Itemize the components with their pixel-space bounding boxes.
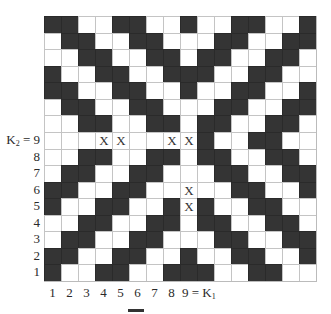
- empty-cell: [44, 215, 61, 232]
- empty-cell: [61, 149, 78, 166]
- empty-cell: [299, 215, 316, 232]
- empty-cell: [61, 215, 78, 232]
- marked-cell: X: [180, 132, 197, 149]
- y-tick-label: 7: [0, 165, 40, 181]
- x-label-k1: 9 = K1: [182, 285, 216, 305]
- empty-cell: [282, 248, 299, 265]
- empty-cell: [44, 231, 61, 248]
- empty-cell: [265, 16, 282, 33]
- empty-cell: [146, 66, 163, 83]
- y-tick-label: 3: [0, 231, 40, 247]
- empty-cell: [231, 132, 248, 149]
- filled-cell: [129, 182, 146, 199]
- empty-cell: [44, 149, 61, 166]
- filled-cell: [299, 99, 316, 116]
- empty-cell: [95, 82, 112, 99]
- x-tick-label: 5: [112, 285, 129, 301]
- empty-cell: [163, 99, 180, 116]
- filled-cell: [44, 182, 61, 199]
- empty-cell: [299, 132, 316, 149]
- filled-cell: [95, 115, 112, 132]
- x-tick-label: 7: [146, 285, 163, 301]
- filled-cell: [299, 16, 316, 33]
- empty-cell: [78, 132, 95, 149]
- empty-cell: [248, 231, 265, 248]
- filled-cell: [95, 215, 112, 232]
- empty-cell: [163, 33, 180, 50]
- empty-cell: [163, 248, 180, 265]
- filled-cell: [163, 66, 180, 83]
- filled-cell: [44, 264, 61, 281]
- empty-cell: [299, 264, 316, 281]
- empty-cell: [78, 66, 95, 83]
- empty-cell: [95, 99, 112, 116]
- empty-cell: [44, 132, 61, 149]
- marked-cell: X: [163, 132, 180, 149]
- empty-cell: [78, 182, 95, 199]
- x-tick-label: 2: [61, 285, 78, 301]
- empty-cell: [129, 132, 146, 149]
- empty-cell: [265, 248, 282, 265]
- filled-cell: [299, 33, 316, 50]
- empty-cell: [146, 132, 163, 149]
- empty-cell: [129, 264, 146, 281]
- filled-cell: [129, 165, 146, 182]
- empty-cell: [163, 16, 180, 33]
- filled-cell: [265, 264, 282, 281]
- empty-cell: [112, 231, 129, 248]
- empty-cell: [163, 182, 180, 199]
- empty-cell: [61, 198, 78, 215]
- empty-cell: [282, 16, 299, 33]
- filled-cell: [299, 231, 316, 248]
- empty-cell: [265, 231, 282, 248]
- empty-cell: [112, 49, 129, 66]
- filled-cell: [95, 49, 112, 66]
- filled-cell: [231, 16, 248, 33]
- empty-cell: [163, 165, 180, 182]
- filled-cell: [146, 115, 163, 132]
- empty-cell: [44, 115, 61, 132]
- empty-cell: [265, 99, 282, 116]
- filled-cell: [248, 66, 265, 83]
- filled-cell: [163, 49, 180, 66]
- filled-cell: [299, 182, 316, 199]
- empty-cell: [299, 115, 316, 132]
- empty-cell: [214, 264, 231, 281]
- filled-cell: [248, 132, 265, 149]
- filled-cell: [44, 16, 61, 33]
- filled-cell: [180, 82, 197, 99]
- filled-cell: [197, 49, 214, 66]
- filled-cell: [214, 115, 231, 132]
- filled-cell: [163, 115, 180, 132]
- empty-cell: [282, 66, 299, 83]
- y-tick-label: 4: [0, 215, 40, 231]
- filled-cell: [231, 182, 248, 199]
- filled-cell: [197, 198, 214, 215]
- filled-cell: [299, 82, 316, 99]
- empty-cell: [95, 182, 112, 199]
- empty-cell: [95, 231, 112, 248]
- marked-cell: X: [180, 198, 197, 215]
- filled-cell: [299, 248, 316, 265]
- filled-cell: [78, 149, 95, 166]
- empty-cell: [146, 16, 163, 33]
- filled-cell: [61, 99, 78, 116]
- empty-cell: [129, 49, 146, 66]
- empty-cell: [95, 33, 112, 50]
- empty-cell: [180, 149, 197, 166]
- empty-cell: [248, 33, 265, 50]
- filled-cell: [282, 215, 299, 232]
- empty-cell: [197, 16, 214, 33]
- empty-cell: [248, 49, 265, 66]
- empty-cell: [44, 33, 61, 50]
- filled-cell: [282, 115, 299, 132]
- empty-cell: [78, 248, 95, 265]
- filled-cell: [112, 66, 129, 83]
- empty-cell: [180, 231, 197, 248]
- filled-cell: [112, 182, 129, 199]
- filled-cell: [214, 149, 231, 166]
- filled-cell: [248, 16, 265, 33]
- filled-cell: [231, 33, 248, 50]
- empty-cell: [299, 149, 316, 166]
- filled-cell: [78, 115, 95, 132]
